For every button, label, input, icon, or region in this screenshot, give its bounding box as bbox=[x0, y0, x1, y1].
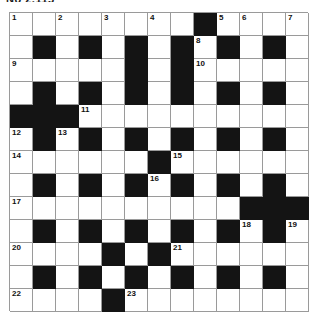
grid-letter-cell[interactable] bbox=[10, 174, 33, 197]
grid-letter-cell[interactable] bbox=[171, 197, 194, 220]
grid-letter-cell[interactable] bbox=[286, 59, 309, 82]
grid-letter-cell[interactable] bbox=[148, 220, 171, 243]
grid-letter-cell[interactable]: 22 bbox=[10, 289, 33, 312]
grid-letter-cell[interactable] bbox=[194, 128, 217, 151]
grid-letter-cell[interactable] bbox=[217, 151, 240, 174]
grid-letter-cell[interactable]: 16 bbox=[148, 174, 171, 197]
grid-letter-cell[interactable] bbox=[194, 151, 217, 174]
grid-letter-cell[interactable] bbox=[286, 266, 309, 289]
grid-letter-cell[interactable] bbox=[10, 36, 33, 59]
grid-letter-cell[interactable] bbox=[33, 243, 56, 266]
grid-letter-cell[interactable]: 18 bbox=[240, 220, 263, 243]
grid-letter-cell[interactable] bbox=[194, 105, 217, 128]
grid-letter-cell[interactable] bbox=[240, 289, 263, 312]
grid-letter-cell[interactable] bbox=[56, 220, 79, 243]
grid-letter-cell[interactable] bbox=[148, 197, 171, 220]
grid-letter-cell[interactable] bbox=[79, 59, 102, 82]
grid-letter-cell[interactable] bbox=[56, 151, 79, 174]
grid-letter-cell[interactable]: 2 bbox=[56, 13, 79, 36]
grid-letter-cell[interactable]: 23 bbox=[125, 289, 148, 312]
grid-letter-cell[interactable] bbox=[56, 36, 79, 59]
grid-letter-cell[interactable] bbox=[79, 289, 102, 312]
grid-letter-cell[interactable]: 21 bbox=[171, 243, 194, 266]
grid-letter-cell[interactable] bbox=[286, 151, 309, 174]
grid-letter-cell[interactable] bbox=[263, 243, 286, 266]
grid-letter-cell[interactable] bbox=[79, 197, 102, 220]
grid-letter-cell[interactable] bbox=[148, 36, 171, 59]
grid-letter-cell[interactable] bbox=[240, 128, 263, 151]
grid-letter-cell[interactable] bbox=[102, 59, 125, 82]
grid-letter-cell[interactable]: 15 bbox=[171, 151, 194, 174]
grid-letter-cell[interactable] bbox=[125, 105, 148, 128]
grid-letter-cell[interactable] bbox=[263, 59, 286, 82]
grid-letter-cell[interactable] bbox=[102, 266, 125, 289]
grid-letter-cell[interactable] bbox=[148, 128, 171, 151]
grid-letter-cell[interactable]: 7 bbox=[286, 13, 309, 36]
grid-letter-cell[interactable] bbox=[171, 289, 194, 312]
grid-letter-cell[interactable] bbox=[286, 128, 309, 151]
grid-letter-cell[interactable] bbox=[194, 220, 217, 243]
grid-letter-cell[interactable] bbox=[286, 105, 309, 128]
grid-letter-cell[interactable] bbox=[56, 243, 79, 266]
grid-letter-cell[interactable]: 10 bbox=[194, 59, 217, 82]
grid-letter-cell[interactable]: 1 bbox=[10, 13, 33, 36]
grid-letter-cell[interactable] bbox=[56, 59, 79, 82]
grid-letter-cell[interactable] bbox=[102, 220, 125, 243]
grid-letter-cell[interactable] bbox=[217, 59, 240, 82]
grid-letter-cell[interactable] bbox=[125, 13, 148, 36]
grid-letter-cell[interactable] bbox=[240, 243, 263, 266]
grid-letter-cell[interactable] bbox=[148, 82, 171, 105]
grid-letter-cell[interactable] bbox=[56, 82, 79, 105]
grid-letter-cell[interactable]: 11 bbox=[79, 105, 102, 128]
grid-letter-cell[interactable] bbox=[240, 266, 263, 289]
grid-letter-cell[interactable] bbox=[33, 289, 56, 312]
grid-letter-cell[interactable] bbox=[33, 151, 56, 174]
grid-letter-cell[interactable] bbox=[217, 197, 240, 220]
grid-letter-cell[interactable] bbox=[286, 174, 309, 197]
grid-letter-cell[interactable] bbox=[240, 59, 263, 82]
grid-letter-cell[interactable] bbox=[263, 13, 286, 36]
grid-letter-cell[interactable] bbox=[240, 82, 263, 105]
grid-letter-cell[interactable] bbox=[79, 151, 102, 174]
crossword-grid[interactable]: 1234567891011121314151617181920212223 bbox=[10, 13, 309, 312]
grid-letter-cell[interactable] bbox=[102, 174, 125, 197]
grid-letter-cell[interactable] bbox=[194, 266, 217, 289]
grid-letter-cell[interactable] bbox=[102, 36, 125, 59]
grid-letter-cell[interactable] bbox=[194, 174, 217, 197]
grid-letter-cell[interactable]: 4 bbox=[148, 13, 171, 36]
grid-letter-cell[interactable] bbox=[171, 13, 194, 36]
grid-letter-cell[interactable] bbox=[79, 243, 102, 266]
grid-letter-cell[interactable] bbox=[56, 266, 79, 289]
grid-letter-cell[interactable]: 20 bbox=[10, 243, 33, 266]
grid-letter-cell[interactable] bbox=[10, 82, 33, 105]
grid-letter-cell[interactable]: 13 bbox=[56, 128, 79, 151]
grid-letter-cell[interactable] bbox=[102, 105, 125, 128]
grid-letter-cell[interactable] bbox=[217, 105, 240, 128]
grid-letter-cell[interactable]: 3 bbox=[102, 13, 125, 36]
grid-letter-cell[interactable] bbox=[33, 59, 56, 82]
grid-letter-cell[interactable]: 9 bbox=[10, 59, 33, 82]
grid-letter-cell[interactable] bbox=[194, 82, 217, 105]
grid-letter-cell[interactable] bbox=[286, 243, 309, 266]
grid-letter-cell[interactable] bbox=[240, 36, 263, 59]
grid-letter-cell[interactable] bbox=[194, 289, 217, 312]
grid-letter-cell[interactable]: 12 bbox=[10, 128, 33, 151]
grid-letter-cell[interactable] bbox=[148, 266, 171, 289]
grid-letter-cell[interactable]: 17 bbox=[10, 197, 33, 220]
grid-letter-cell[interactable] bbox=[102, 197, 125, 220]
grid-letter-cell[interactable] bbox=[263, 289, 286, 312]
grid-letter-cell[interactable]: 14 bbox=[10, 151, 33, 174]
grid-letter-cell[interactable] bbox=[171, 105, 194, 128]
grid-letter-cell[interactable] bbox=[240, 174, 263, 197]
grid-letter-cell[interactable] bbox=[148, 105, 171, 128]
grid-letter-cell[interactable] bbox=[286, 36, 309, 59]
grid-letter-cell[interactable] bbox=[125, 197, 148, 220]
grid-letter-cell[interactable]: 5 bbox=[217, 13, 240, 36]
grid-letter-cell[interactable] bbox=[217, 243, 240, 266]
grid-letter-cell[interactable] bbox=[56, 289, 79, 312]
grid-letter-cell[interactable] bbox=[56, 174, 79, 197]
grid-letter-cell[interactable] bbox=[125, 151, 148, 174]
grid-letter-cell[interactable] bbox=[33, 197, 56, 220]
grid-letter-cell[interactable] bbox=[56, 197, 79, 220]
grid-letter-cell[interactable] bbox=[148, 59, 171, 82]
